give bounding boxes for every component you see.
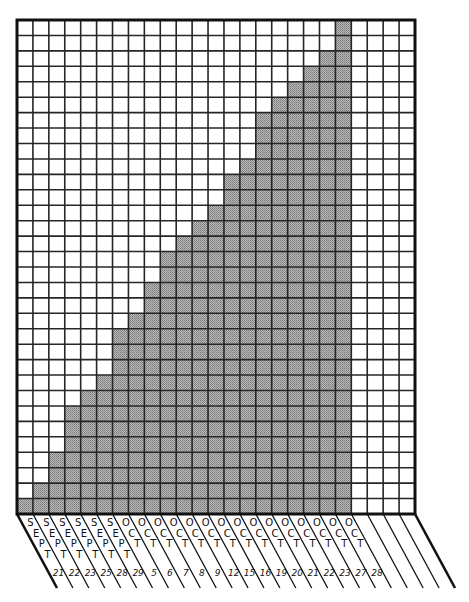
svg-text:27: 27 [355, 568, 367, 578]
svg-text:T: T [277, 538, 285, 549]
svg-text:T: T [133, 538, 141, 549]
svg-text:C: C [303, 528, 310, 539]
svg-text:T: T [59, 549, 67, 560]
svg-text:C: C [351, 528, 358, 539]
svg-text:T: T [75, 549, 83, 560]
svg-text:O: O [297, 517, 305, 528]
svg-text:21: 21 [308, 568, 319, 578]
svg-text:S: S [107, 517, 113, 528]
svg-text:T: T [149, 538, 157, 549]
svg-text:T: T [293, 538, 301, 549]
svg-text:C: C [240, 528, 247, 539]
bar [192, 221, 208, 514]
svg-text:O: O [154, 517, 162, 528]
svg-text:T: T [229, 538, 237, 549]
svg-text:C: C [271, 528, 278, 539]
svg-text:E: E [33, 528, 39, 539]
svg-text:T: T [213, 538, 221, 549]
svg-text:P: P [55, 538, 61, 549]
svg-text:C: C [319, 528, 326, 539]
svg-text:T: T [245, 538, 253, 549]
svg-text:P: P [118, 538, 124, 549]
svg-text:O: O [138, 517, 146, 528]
svg-text:O: O [313, 517, 321, 528]
cumulative-bar-chart: SEPT21SEPT22SEPT23SEPT25SEPT28SEPT29OCT5… [0, 0, 469, 602]
bar [304, 66, 320, 514]
svg-text:S: S [27, 517, 33, 528]
svg-text:S: S [43, 517, 49, 528]
svg-text:S: S [91, 517, 97, 528]
svg-text:O: O [218, 517, 226, 528]
svg-text:T: T [356, 538, 364, 549]
bar [144, 282, 160, 514]
svg-text:8: 8 [199, 568, 205, 578]
svg-text:E: E [97, 528, 103, 539]
svg-text:S: S [75, 517, 81, 528]
svg-text:C: C [335, 528, 342, 539]
svg-text:9: 9 [215, 568, 221, 578]
svg-text:E: E [113, 528, 119, 539]
svg-text:C: C [160, 528, 167, 539]
svg-text:T: T [308, 538, 316, 549]
bar [17, 499, 33, 514]
svg-text:T: T [43, 549, 51, 560]
svg-text:25: 25 [101, 568, 113, 578]
svg-text:C: C [208, 528, 215, 539]
svg-text:T: T [107, 549, 115, 560]
svg-text:P: P [71, 538, 77, 549]
svg-text:15: 15 [244, 568, 256, 578]
svg-text:O: O [170, 517, 178, 528]
svg-text:23: 23 [339, 568, 351, 578]
svg-text:C: C [144, 528, 151, 539]
svg-text:P: P [87, 538, 93, 549]
svg-text:T: T [324, 538, 332, 549]
svg-text:T: T [165, 538, 173, 549]
svg-text:T: T [181, 538, 189, 549]
bar [160, 252, 176, 514]
svg-text:22: 22 [69, 568, 81, 578]
svg-text:6: 6 [167, 568, 173, 578]
svg-text:7: 7 [183, 568, 189, 578]
svg-text:21: 21 [53, 568, 64, 578]
svg-text:C: C [128, 528, 135, 539]
svg-text:20: 20 [292, 568, 304, 578]
svg-text:C: C [256, 528, 263, 539]
svg-text:C: C [176, 528, 183, 539]
svg-text:5: 5 [151, 568, 157, 578]
svg-text:28: 28 [371, 568, 383, 578]
svg-text:O: O [345, 517, 353, 528]
svg-text:O: O [186, 517, 194, 528]
bar [97, 375, 113, 514]
svg-text:O: O [234, 517, 242, 528]
svg-text:C: C [224, 528, 231, 539]
svg-text:O: O [329, 517, 337, 528]
svg-text:T: T [340, 538, 348, 549]
svg-text:16: 16 [260, 568, 272, 578]
svg-text:T: T [123, 549, 131, 560]
svg-text:E: E [65, 528, 71, 539]
svg-text:T: T [261, 538, 269, 549]
svg-text:O: O [281, 517, 289, 528]
svg-text:O: O [202, 517, 210, 528]
svg-text:O: O [249, 517, 257, 528]
svg-text:P: P [103, 538, 109, 549]
svg-text:O: O [265, 517, 273, 528]
svg-text:22: 22 [323, 568, 335, 578]
svg-text:12: 12 [228, 568, 240, 578]
bar [240, 159, 256, 514]
svg-text:29: 29 [132, 568, 144, 578]
svg-text:P: P [39, 538, 45, 549]
svg-text:E: E [81, 528, 87, 539]
svg-text:C: C [287, 528, 294, 539]
svg-text:O: O [122, 517, 130, 528]
svg-text:C: C [192, 528, 199, 539]
svg-text:19: 19 [276, 568, 288, 578]
svg-text:23: 23 [85, 568, 97, 578]
svg-text:E: E [49, 528, 55, 539]
svg-text:S: S [59, 517, 65, 528]
svg-text:T: T [91, 549, 99, 560]
svg-text:T: T [197, 538, 205, 549]
svg-text:28: 28 [116, 568, 128, 578]
